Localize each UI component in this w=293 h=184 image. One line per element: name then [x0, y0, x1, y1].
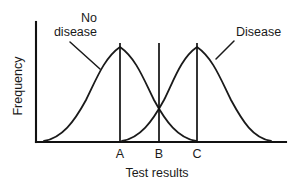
x-tick-label-b: B — [155, 147, 163, 161]
frequency-vs-test-results-chart: No disease Disease A B C Test results Fr… — [0, 0, 293, 184]
no-disease-label-line1: No — [81, 11, 97, 25]
x-axis-title: Test results — [125, 166, 188, 180]
no-disease-label-line2: disease — [54, 25, 97, 39]
no-disease-leader-line — [70, 42, 100, 69]
chart-canvas: No disease Disease A B C Test results Fr… — [0, 0, 293, 184]
disease-leader-line — [216, 41, 234, 59]
disease-label: Disease — [236, 25, 281, 39]
x-tick-label-c: C — [192, 147, 201, 161]
y-axis-title: Frequency — [11, 56, 25, 116]
x-tick-label-a: A — [116, 147, 125, 161]
